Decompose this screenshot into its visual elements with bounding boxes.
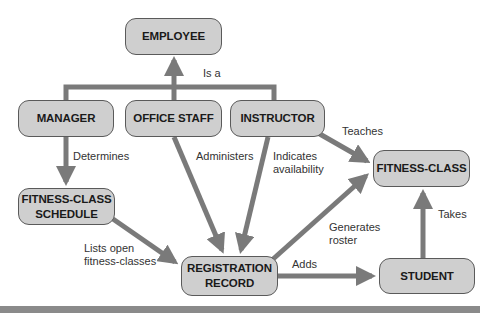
node-fitness-class: FITNESS-CLASS [373, 150, 470, 187]
node-registration-record: REGISTRATION RECORD [181, 256, 278, 296]
node-fitness-class-schedule: FITNESS-CLASS SCHEDULE [18, 188, 115, 225]
bottom-band [0, 306, 480, 313]
generates-arrow [272, 176, 366, 260]
node-instructor: INSTRUCTOR [230, 100, 325, 137]
label-lists-open: Lists open fitness-classes [84, 242, 156, 268]
label-indicates-availability: Indicates availability [273, 150, 324, 176]
label-determines: Determines [73, 150, 129, 163]
label-administers: Administers [196, 150, 253, 163]
label-is-a: Is a [203, 67, 221, 80]
label-adds: Adds [292, 258, 317, 271]
label-generates-roster: Generates roster [329, 221, 380, 247]
label-teaches: Teaches [342, 125, 383, 138]
label-takes: Takes [438, 208, 467, 221]
is-a-bracket [66, 87, 274, 100]
node-employee: EMPLOYEE [125, 18, 222, 55]
node-manager: MANAGER [18, 100, 114, 137]
node-office-staff: OFFICE STAFF [125, 100, 222, 137]
node-student: STUDENT [379, 258, 475, 294]
